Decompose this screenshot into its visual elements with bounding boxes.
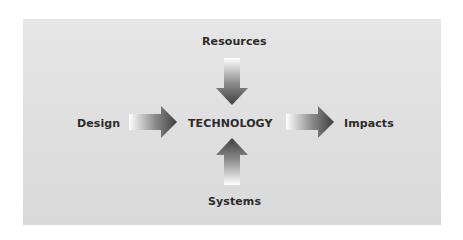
center-technology: TECHNOLOGY <box>188 118 273 129</box>
node-impacts: Impacts <box>344 118 394 129</box>
node-design: Design <box>77 118 120 129</box>
arrow-down-icon <box>216 58 248 105</box>
node-resources: Resources <box>202 36 267 47</box>
arrow-right-icon <box>129 106 177 138</box>
arrow-right-icon <box>286 106 334 138</box>
node-systems: Systems <box>208 196 261 207</box>
arrow-up-icon <box>216 138 248 185</box>
